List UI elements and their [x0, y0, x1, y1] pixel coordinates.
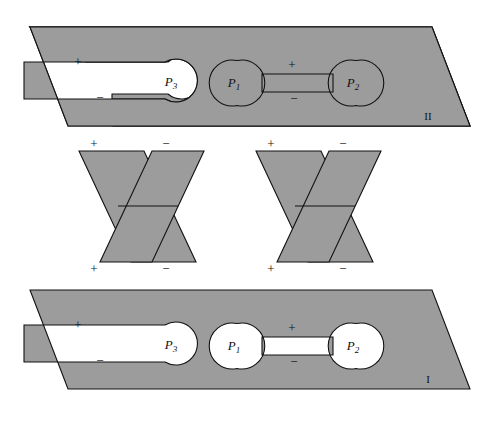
- x-left-sign-top-right: −: [162, 136, 169, 151]
- sign-p3-plus-lower: +: [74, 317, 81, 332]
- x-right-sign-bottom-right: −: [339, 261, 346, 276]
- plane-lower-outline: [24, 290, 470, 389]
- plane-upper-name: II: [424, 110, 432, 122]
- x-connector-right: + − + −: [256, 136, 381, 276]
- sign-p3-minus-lower: −: [96, 353, 103, 368]
- plane-upper: + − + − P3 P1 P2 II: [24, 27, 470, 126]
- plane-lower: + − + − P3 P1 P2 I: [24, 290, 470, 389]
- technical-diagram: + − + − P3 P1 P2 II + − + − + − + −: [0, 0, 504, 425]
- x-connector-left: + − + −: [79, 136, 204, 276]
- port-label-p3-upper: P3: [164, 74, 178, 91]
- x-left-sign-top-left: +: [90, 136, 97, 151]
- sign-p12-minus-lower: −: [290, 354, 297, 369]
- port-label-p1-lower: P1: [227, 338, 240, 355]
- sign-p3-minus-upper: −: [96, 90, 103, 105]
- x-right-sign-top-left: +: [267, 136, 274, 151]
- sign-p3-plus-upper: +: [74, 54, 81, 69]
- x-right-sign-top-right: −: [339, 136, 346, 151]
- sign-p12-minus-upper: −: [290, 91, 297, 106]
- x-left-sign-bottom-left: +: [90, 261, 97, 276]
- x-left-sign-bottom-right: −: [162, 261, 169, 276]
- x-right-sign-bottom-left: +: [267, 261, 274, 276]
- sign-p12-plus-upper: +: [288, 57, 295, 72]
- port-label-p2-lower: P2: [346, 338, 360, 355]
- sign-p12-plus-lower: +: [288, 320, 295, 335]
- port-label-p3-lower: P3: [164, 337, 178, 354]
- plane-lower-name: I: [426, 373, 430, 385]
- figure-canvas: + − + − P3 P1 P2 II + − + − + − + −: [0, 0, 504, 425]
